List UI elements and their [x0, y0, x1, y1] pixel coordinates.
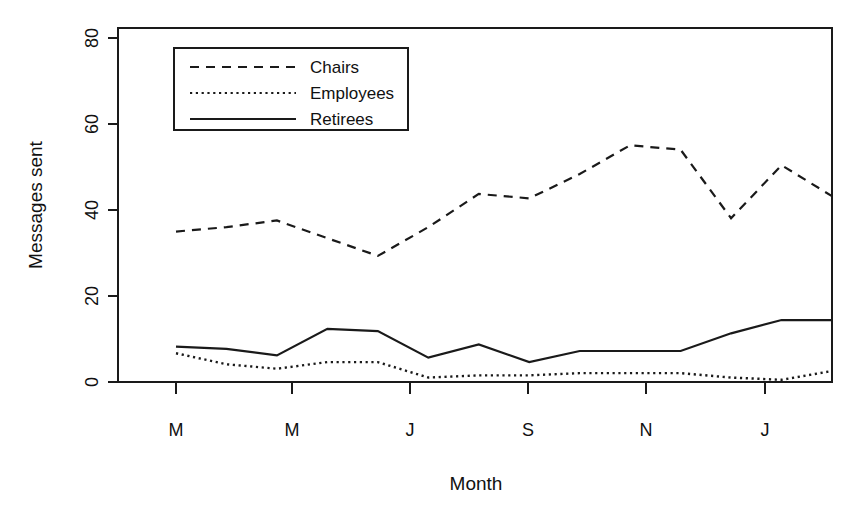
chart-legend: Chairs Employees Retirees [174, 48, 408, 130]
legend-label-chairs: Chairs [310, 58, 359, 77]
line-chart-figure: 80 60 40 20 0 Messages sent M M J S N J … [0, 0, 859, 512]
legend-label-retirees: Retirees [310, 110, 373, 129]
y-tick-label-60: 60 [82, 114, 102, 134]
x-tick-label-3: J [406, 420, 415, 440]
x-tick-label-6: J [761, 420, 770, 440]
y-tick-label-20: 20 [82, 286, 102, 306]
x-tick-label-4: S [522, 420, 534, 440]
y-tick-label-0: 0 [82, 377, 102, 387]
chart-background [0, 0, 859, 512]
x-tick-label-5: N [640, 420, 653, 440]
x-axis-title: Month [450, 473, 503, 494]
x-tick-label-1: M [169, 420, 184, 440]
y-axis-title: Messages sent [25, 140, 46, 269]
y-tick-label-80: 80 [82, 28, 102, 48]
y-tick-label-40: 40 [82, 200, 102, 220]
x-tick-label-2: M [285, 420, 300, 440]
legend-label-employees: Employees [310, 84, 394, 103]
